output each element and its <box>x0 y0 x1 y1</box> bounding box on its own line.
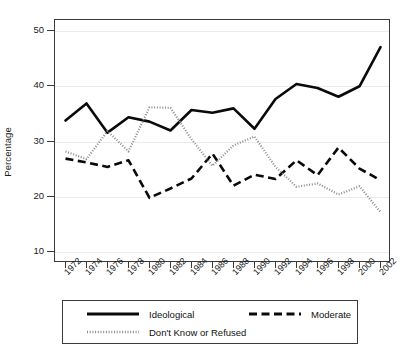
legend-label: Ideological <box>149 309 194 320</box>
y-tick <box>47 30 54 31</box>
y-tick-label: 30 <box>14 135 44 146</box>
legend-item[interactable]: Moderate <box>247 306 351 322</box>
y-tick-label: 50 <box>14 24 44 35</box>
chart-figure: Percentage IdeologicalModerateDon't Know… <box>0 0 418 351</box>
legend-item[interactable]: Ideological <box>85 306 194 322</box>
solid-line-key-icon <box>85 308 141 320</box>
series-line <box>66 47 381 133</box>
plot-area <box>54 19 390 262</box>
y-tick <box>47 141 54 142</box>
y-tick <box>47 251 54 252</box>
y-axis-title: Percentage <box>2 0 13 92</box>
dotted-line-key-icon <box>85 326 141 338</box>
series-line <box>66 107 381 212</box>
y-tick <box>47 196 54 197</box>
legend-box: IdeologicalModerateDon't Know or Refused <box>62 300 358 344</box>
y-tick-label: 40 <box>14 79 44 90</box>
dashed-line-key-icon <box>247 308 303 320</box>
legend-label: Moderate <box>311 309 351 320</box>
y-tick <box>47 85 54 86</box>
series-lines <box>55 20 391 263</box>
y-tick-label: 20 <box>14 190 44 201</box>
y-tick-label: 10 <box>14 245 44 256</box>
legend-item[interactable]: Don't Know or Refused <box>85 324 246 340</box>
legend-label: Don't Know or Refused <box>149 327 246 338</box>
